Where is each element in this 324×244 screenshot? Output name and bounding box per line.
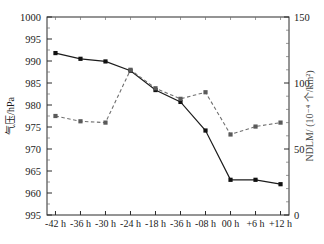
x-axis-tick-label: -18 h	[145, 218, 166, 229]
data-point-marker	[103, 121, 107, 125]
x-axis-tick-label: -24 h	[120, 218, 141, 229]
right-axis-tick-label: 0	[294, 210, 299, 221]
left-axis-tick-label: 995	[25, 34, 41, 45]
left-axis-tick-label: 980	[25, 100, 41, 111]
series-line-ndlm	[55, 70, 280, 135]
right-axis-tick-label: 150	[294, 12, 310, 23]
series-layer	[53, 51, 282, 186]
data-point-marker	[128, 68, 132, 72]
x-axis-tick-label: -42 h	[45, 218, 66, 229]
x-axis-tick-label: 00 h	[222, 218, 240, 229]
x-axis-tick-label: -36 h	[70, 218, 91, 229]
data-point-marker	[253, 124, 257, 128]
x-axis-tick-label: -08 h	[195, 218, 216, 229]
data-point-marker	[178, 97, 182, 101]
data-point-marker	[203, 90, 207, 94]
data-point-marker	[278, 182, 282, 186]
x-axis-tick-label: +6 h	[246, 218, 264, 229]
left-axis-tick-label: 970	[25, 144, 41, 155]
data-point-marker	[228, 132, 232, 136]
data-point-marker	[253, 178, 257, 182]
right-axis-tick-label: 50	[294, 144, 305, 155]
data-point-marker	[203, 128, 207, 132]
x-axis-tick-label: -30 h	[95, 218, 116, 229]
series-line-pressure	[55, 53, 280, 184]
x-axis-tick-label: -36 h	[170, 218, 191, 229]
x-axis-tick-label: +12 h	[269, 218, 292, 229]
left-axis-tick-label: 990	[25, 56, 41, 67]
left-axis-tick-label: 965	[25, 166, 41, 177]
left-axis-tick-label: 975	[25, 122, 41, 133]
data-point-marker	[153, 86, 157, 90]
data-point-marker	[53, 51, 57, 55]
data-point-marker	[278, 121, 282, 125]
plot-border	[47, 17, 289, 215]
axis-ticks-layer	[47, 17, 289, 215]
left-axis-tick-label: 960	[25, 188, 41, 199]
right-axis-title: NDLM/ (10⁻⁴ 个/km²)	[304, 70, 316, 161]
left-axis-tick-label: 985	[25, 78, 41, 89]
data-point-marker	[53, 114, 57, 118]
left-axis-tick-label: 995	[25, 210, 41, 221]
data-point-marker	[228, 178, 232, 182]
plot-frame	[47, 17, 289, 215]
data-point-marker	[78, 119, 82, 123]
data-point-marker	[103, 59, 107, 63]
left-axis-tick-label: 1000	[20, 12, 41, 23]
chart-svg: 1000995990985980975970965960995150100500…	[0, 0, 324, 244]
chart-figure: 1000995990985980975970965960995150100500…	[0, 0, 324, 244]
data-point-marker	[78, 57, 82, 61]
left-axis-title: 气压/hPa	[4, 97, 16, 135]
axis-labels-layer: 1000995990985980975970965960995150100500…	[4, 12, 316, 229]
